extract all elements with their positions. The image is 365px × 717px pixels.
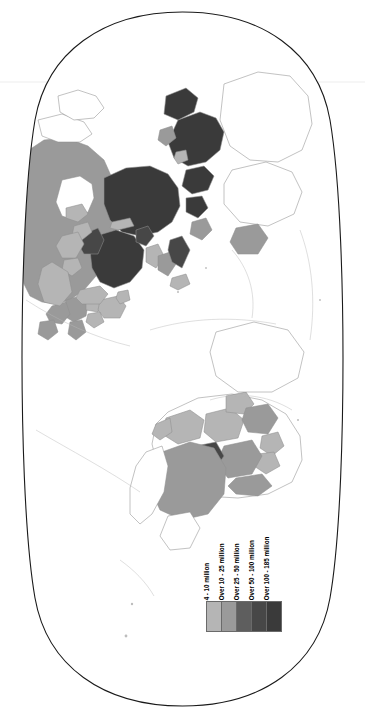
legend-swatch-2 (237, 602, 252, 631)
population-legend: 4 - 10 million Over 10 - 25 million Over… (198, 540, 284, 640)
legend-swatches (206, 601, 282, 632)
legend-label-3: Over 50 - 100 million (249, 540, 255, 600)
legend-labels: 4 - 10 million Over 10 - 25 million Over… (206, 540, 278, 600)
legend-swatch-3 (252, 602, 267, 631)
legend-swatch-1 (222, 602, 237, 631)
region-canada-outline (220, 72, 312, 162)
legend-label-2: Over 25 - 50 million (234, 543, 240, 600)
legend-swatch-0 (207, 602, 222, 631)
world-choropleth-map (0, 0, 365, 717)
legend-label-0: 4 - 10 million (204, 563, 210, 600)
legend-label-4: Over 100 - 185 million (264, 536, 270, 600)
map-body (0, 0, 365, 717)
legend-swatch-4 (267, 602, 281, 631)
legend-label-1: Over 10 - 25 million (219, 543, 225, 600)
map-figure: 4 - 10 million Over 10 - 25 million Over… (0, 0, 365, 717)
region-australia-outline (210, 322, 304, 392)
